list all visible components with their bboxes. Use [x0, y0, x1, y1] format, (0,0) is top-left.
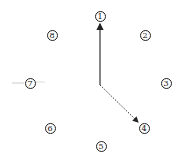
node-4: 4 [139, 123, 150, 134]
node-6: 6 [45, 123, 56, 134]
node-7: 7 [25, 78, 36, 89]
node-5: 5 [96, 141, 107, 152]
node-3: 3 [161, 78, 172, 89]
node-8: 8 [47, 30, 58, 41]
node-2: 2 [140, 30, 151, 41]
dotted-arrow-to-4 [100, 85, 138, 122]
node-1: 1 [95, 11, 106, 22]
